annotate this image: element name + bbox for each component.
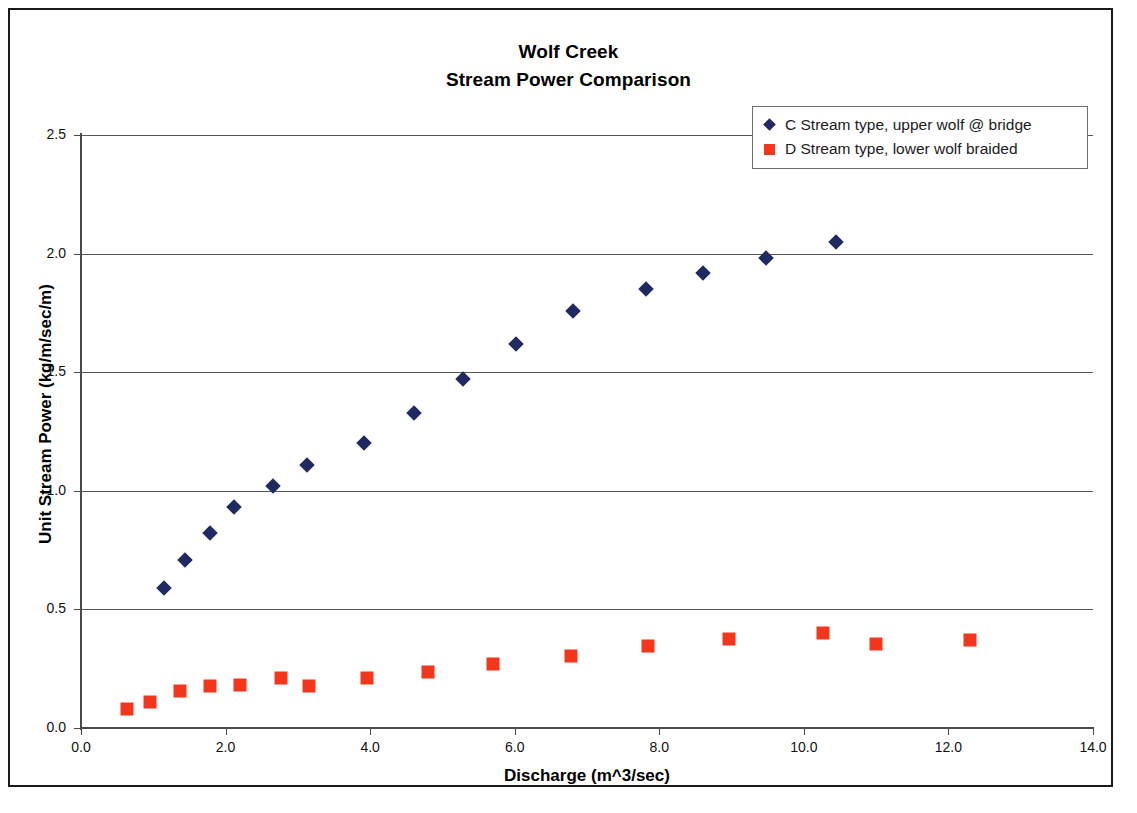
data-point-series-c <box>638 281 654 297</box>
x-axis-tick <box>659 728 660 735</box>
x-axis-tick <box>1093 728 1094 735</box>
data-point-series-d <box>360 672 373 685</box>
x-axis-tick <box>804 728 805 735</box>
chart-title-line-2: Stream Power Comparison <box>0 66 1137 94</box>
x-axis-tick <box>370 728 371 735</box>
chart-legend: C Stream type, upper wolf @ bridge D Str… <box>752 106 1088 169</box>
x-axis-tick-label: 6.0 <box>485 739 545 755</box>
data-point-series-d <box>565 649 578 662</box>
data-point-series-c <box>829 234 845 250</box>
x-axis-tick-label: 8.0 <box>629 739 689 755</box>
y-axis-tick-label: 1.0 <box>10 482 66 498</box>
y-axis-line <box>80 133 82 730</box>
data-point-series-d <box>275 672 288 685</box>
data-point-series-c <box>299 457 315 473</box>
y-axis-tick <box>74 135 81 136</box>
data-point-series-d <box>144 695 157 708</box>
x-axis-tick-label: 14.0 <box>1063 739 1123 755</box>
x-axis-tick <box>81 728 82 735</box>
y-axis-tick-label: 2.5 <box>10 126 66 142</box>
x-axis-tick-label: 10.0 <box>774 739 834 755</box>
legend-label-series-d: D Stream type, lower wolf braided <box>785 140 1018 158</box>
data-point-series-c <box>226 500 242 516</box>
data-point-series-c <box>455 372 471 388</box>
x-axis-tick-label: 0.0 <box>51 739 111 755</box>
data-point-series-d <box>203 680 216 693</box>
data-point-series-c <box>406 405 422 421</box>
data-point-series-d <box>421 666 434 679</box>
gridline-y <box>81 254 1093 255</box>
diamond-marker-icon <box>762 117 778 133</box>
x-axis-tick-label: 2.0 <box>196 739 256 755</box>
square-marker-icon <box>762 141 778 157</box>
data-point-series-d <box>487 657 500 670</box>
data-point-series-d <box>234 679 247 692</box>
chart-title-line-1: Wolf Creek <box>0 38 1137 66</box>
data-point-series-d <box>870 637 883 650</box>
x-axis-title: Discharge (m^3/sec) <box>81 766 1093 786</box>
y-axis-tick <box>74 609 81 610</box>
y-axis-tick-label: 0.5 <box>10 600 66 616</box>
data-point-series-c <box>508 336 524 352</box>
data-point-series-c <box>156 580 172 596</box>
x-axis-tick <box>226 728 227 735</box>
x-axis-line <box>80 727 1094 729</box>
data-point-series-c <box>202 526 218 542</box>
y-axis-tick <box>74 254 81 255</box>
plot-area <box>81 135 1093 728</box>
data-point-series-c <box>565 303 581 319</box>
legend-item-series-c: C Stream type, upper wolf @ bridge <box>762 113 1079 137</box>
y-axis-tick-label: 2.0 <box>10 245 66 261</box>
gridline-y <box>81 491 1093 492</box>
data-point-series-c <box>177 552 193 568</box>
data-point-series-c <box>357 436 373 452</box>
y-axis-tick-label: 1.5 <box>10 363 66 379</box>
gridline-y <box>81 372 1093 373</box>
legend-item-series-d: D Stream type, lower wolf braided <box>762 137 1079 161</box>
y-axis-tick <box>74 372 81 373</box>
data-point-series-d <box>642 640 655 653</box>
y-axis-tick-label: 0.0 <box>10 719 66 735</box>
legend-label-series-c: C Stream type, upper wolf @ bridge <box>785 116 1032 134</box>
x-axis-tick-label: 4.0 <box>340 739 400 755</box>
y-axis-title: Unit Stream Power (kg/m/sec/m) <box>36 154 56 674</box>
data-point-series-d <box>174 685 187 698</box>
x-axis-tick <box>515 728 516 735</box>
data-point-series-d <box>723 633 736 646</box>
chart-page: Wolf Creek Stream Power Comparison C Str… <box>0 0 1137 813</box>
data-point-series-d <box>121 703 134 716</box>
x-axis-tick-label: 12.0 <box>918 739 978 755</box>
y-axis-tick <box>74 728 81 729</box>
chart-title: Wolf Creek Stream Power Comparison <box>0 38 1137 93</box>
x-axis-tick <box>948 728 949 735</box>
gridline-y <box>81 609 1093 610</box>
y-axis-tick <box>74 491 81 492</box>
data-point-series-d <box>964 634 977 647</box>
data-point-series-c <box>695 265 711 281</box>
data-point-series-d <box>302 680 315 693</box>
data-point-series-d <box>817 627 830 640</box>
